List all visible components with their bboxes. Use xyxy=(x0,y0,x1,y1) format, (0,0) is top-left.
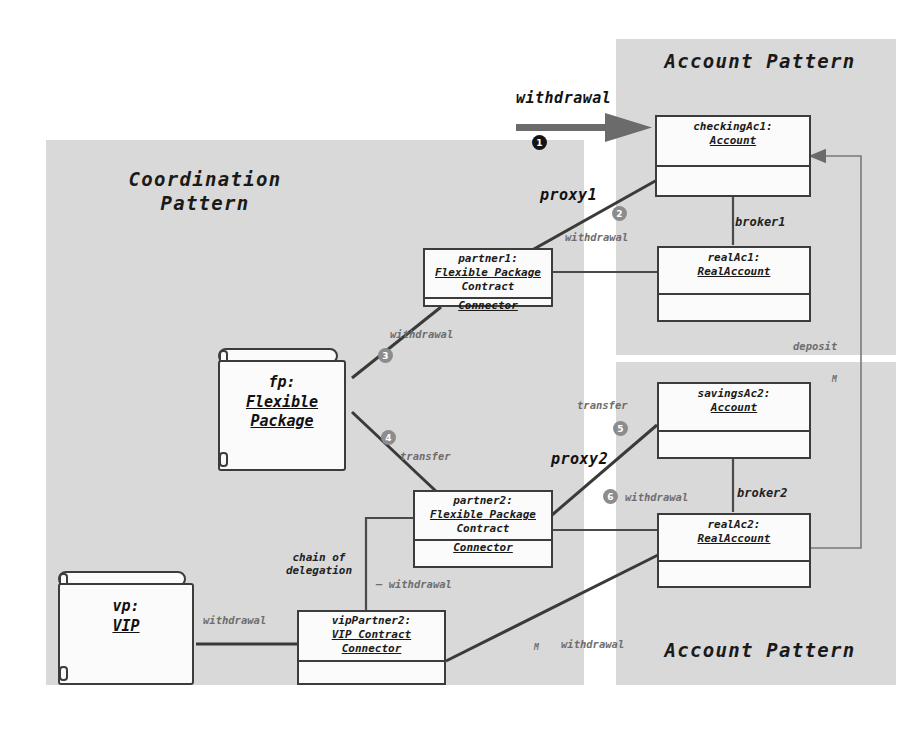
package-vp[interactable]: vp: VIP xyxy=(58,571,198,685)
diagram-canvas: Account Pattern Coordination Pattern Acc… xyxy=(0,0,907,735)
object-body: Connector xyxy=(415,539,551,574)
object-name: realAc2: xyxy=(663,518,805,532)
package-body: vp: VIP xyxy=(58,583,194,685)
label-transfer-5: transfer xyxy=(577,399,628,411)
label-withdrawal-chain: — withdrawal xyxy=(376,578,452,590)
object-name: partner2: xyxy=(419,494,547,508)
object-body xyxy=(659,560,809,595)
object-type: VIP Contract xyxy=(303,628,440,642)
label-withdrawal-2: withdrawal xyxy=(565,231,628,243)
package-text: fp: Flexible Package xyxy=(220,362,344,432)
object-type: Flexible Package xyxy=(419,508,547,522)
label-multiplicity-bottom: M xyxy=(534,643,539,652)
object-body xyxy=(659,430,809,466)
object-name: vipPartner2: xyxy=(303,614,440,628)
object-header: partner2: Flexible Package Contract xyxy=(415,492,551,539)
label-withdrawal-vip-real: withdrawal xyxy=(561,638,624,650)
object-extra-connector: Connector xyxy=(303,642,440,656)
object-header: realAc2: RealAccount xyxy=(659,515,809,560)
object-header: realAc1: RealAccount xyxy=(659,248,809,293)
label-withdrawal-6: withdrawal xyxy=(625,491,688,503)
package-body: fp: Flexible Package xyxy=(218,360,346,471)
label-withdrawal-vp: withdrawal xyxy=(203,614,266,626)
object-name: partner1: xyxy=(429,252,547,266)
object-type: Account xyxy=(663,401,805,415)
object-name: savingsAc2: xyxy=(663,387,805,401)
object-header: checkingAc1: Account xyxy=(657,117,809,165)
object-name: realAc1: xyxy=(663,251,805,265)
package-type: VIP xyxy=(112,617,139,637)
object-body xyxy=(657,165,809,204)
object-type: Flexible Package xyxy=(429,266,547,280)
panel-title-account-pattern-top: Account Pattern xyxy=(640,50,880,74)
panel-title-account-pattern-bottom: Account Pattern xyxy=(640,639,880,663)
object-body xyxy=(659,293,809,329)
edge-chain-of-delegation xyxy=(366,518,413,612)
step-marker-3: 3 xyxy=(378,348,393,363)
object-partner2[interactable]: partner2: Flexible Package Contract Conn… xyxy=(413,490,553,568)
label-chain-of-delegation: chain of delegation xyxy=(273,551,365,577)
object-vipPartner2[interactable]: vipPartner2: VIP Contract Connector xyxy=(297,610,446,685)
object-savingsAc2[interactable]: savingsAc2: Account xyxy=(657,382,811,459)
step-marker-4: 4 xyxy=(381,430,396,445)
package-fp[interactable]: fp: Flexible Package xyxy=(218,348,350,471)
label-transfer-4: transfer xyxy=(400,450,451,462)
label-withdrawal-entry: withdrawal xyxy=(516,89,611,107)
object-realAc1[interactable]: realAc1: RealAccount xyxy=(657,246,811,322)
object-extra-connector: Connector xyxy=(425,299,551,313)
object-header: savingsAc2: Account xyxy=(659,384,809,430)
object-name: checkingAc1: xyxy=(661,120,805,134)
object-partner1[interactable]: partner1: Flexible Package Contract Conn… xyxy=(423,248,553,307)
label-proxy1: proxy1 xyxy=(540,186,597,204)
object-header: vipPartner2: VIP Contract Connector xyxy=(299,612,444,660)
package-nub-bottom xyxy=(219,452,228,467)
package-text: vp: VIP xyxy=(112,585,139,636)
object-extra-contract: Contract xyxy=(419,522,547,536)
object-type: Account xyxy=(661,134,805,148)
step-marker-5: 5 xyxy=(613,421,628,436)
package-name: fp: xyxy=(220,373,344,393)
object-type: RealAccount xyxy=(663,532,805,546)
step-marker-1: 1 xyxy=(532,135,547,150)
panel-title-coordination-pattern: Coordination Pattern xyxy=(60,168,350,216)
object-checkingAc1[interactable]: checkingAc1: Account xyxy=(655,115,811,197)
object-realAc2[interactable]: realAc2: RealAccount xyxy=(657,513,811,588)
edge-deposit xyxy=(806,156,861,548)
package-type: Flexible Package xyxy=(220,393,344,432)
label-broker2: broker2 xyxy=(737,486,788,500)
package-nub-bottom xyxy=(59,666,68,681)
label-proxy2: proxy2 xyxy=(551,450,608,468)
label-broker1: broker1 xyxy=(735,215,786,229)
label-multiplicity-top: M xyxy=(832,375,837,384)
object-body xyxy=(299,660,444,691)
object-body: Connector xyxy=(425,297,551,315)
step-marker-2: 2 xyxy=(612,206,627,221)
label-withdrawal-3: withdrawal xyxy=(390,328,453,340)
package-name: vp: xyxy=(112,597,139,617)
step-marker-6: 6 xyxy=(603,489,618,504)
object-type: RealAccount xyxy=(663,265,805,279)
object-header: partner1: Flexible Package Contract xyxy=(425,250,551,297)
label-deposit: deposit xyxy=(793,340,837,352)
edge-fp-partner1 xyxy=(352,307,441,378)
object-extra-contract: Contract xyxy=(429,280,547,294)
object-extra-connector: Connector xyxy=(415,541,551,555)
